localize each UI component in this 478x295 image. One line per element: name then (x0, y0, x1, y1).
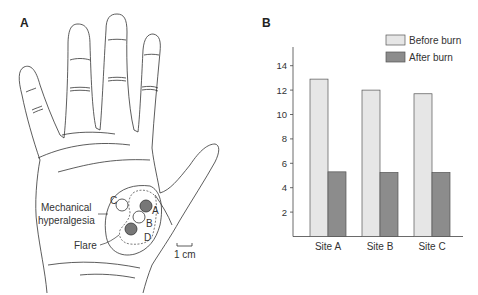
y-tick-label: 10 (276, 109, 287, 120)
bar-after-site-c (432, 172, 450, 236)
scale-label: 1 cm (174, 249, 196, 260)
y-tick-label: 14 (276, 60, 287, 71)
y-tick-label: 12 (276, 85, 287, 96)
flare-label: Flare (74, 240, 97, 251)
site-c-label: C (110, 195, 117, 206)
y-tick-label: 6 (282, 158, 287, 169)
site-d-circle (125, 223, 137, 235)
bar-before-site-c (414, 94, 432, 237)
site-b-label: B (146, 218, 153, 229)
site-a-label: A (152, 205, 159, 216)
y-tick-label: 8 (282, 133, 287, 144)
x-category-label: Site C (418, 241, 445, 252)
mechanical-label-2: hyperalgesia (38, 215, 95, 226)
mechanical-label-1: Mechanical (41, 202, 92, 213)
bar-after-site-a (328, 172, 346, 237)
bar-after-site-b (380, 172, 398, 236)
x-category-label: Site A (315, 241, 341, 252)
site-a-circle (140, 200, 152, 212)
legend-label: Before burn (409, 35, 461, 46)
bar-chart: Before burnAfter burn 2468101214 Site AS… (260, 0, 478, 295)
site-d-label: D (144, 232, 151, 243)
y-tick-label: 2 (282, 207, 287, 218)
x-category-label: Site B (367, 241, 394, 252)
hand-illustration: C A B D Mechanical hyperalgesia Flare 1 … (0, 0, 260, 295)
chart-legend: Before burnAfter burn (386, 35, 461, 63)
legend-swatch (386, 52, 405, 62)
y-tick-label: 4 (282, 182, 287, 193)
site-b-circle (133, 211, 145, 223)
chart-bars: Site ASite BSite C (310, 79, 450, 251)
bar-before-site-b (362, 90, 380, 236)
site-c-circle (116, 199, 128, 211)
bar-before-site-a (310, 79, 328, 236)
legend-swatch (386, 35, 405, 45)
legend-label: After burn (409, 52, 453, 63)
scale-bar (177, 243, 192, 246)
